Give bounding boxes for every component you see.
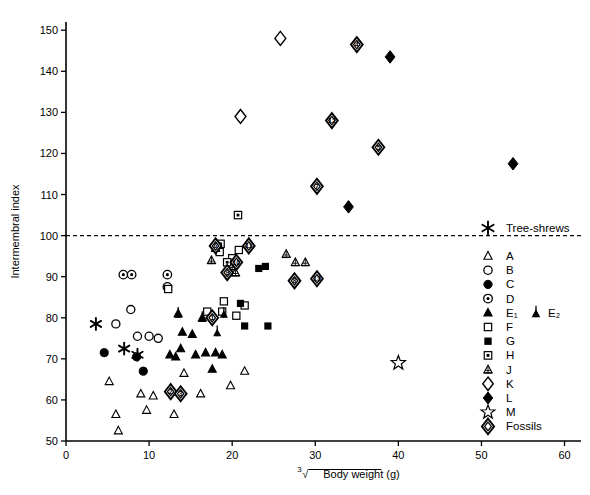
data-point-B-3 bbox=[145, 332, 153, 340]
y-tick-label: 70 bbox=[46, 353, 58, 365]
data-point-L-1 bbox=[385, 51, 395, 64]
data-point-F-4 bbox=[220, 298, 227, 305]
y-tick-label: 150 bbox=[40, 24, 58, 36]
legend-label-K: K bbox=[506, 378, 514, 390]
data-point-G-4 bbox=[262, 263, 269, 270]
legend-label-D: D bbox=[506, 293, 514, 305]
legend-symbol-F bbox=[484, 323, 491, 330]
data-point-E1-6 bbox=[202, 348, 210, 356]
data-point-A-5 bbox=[149, 391, 157, 399]
data-point-F-7 bbox=[235, 246, 242, 253]
legend-label-tree-shrews: Tree-shrews bbox=[506, 222, 570, 234]
data-point-E1-4 bbox=[188, 330, 196, 338]
legend-symbol-E bbox=[484, 308, 492, 316]
data-point-A-7 bbox=[180, 369, 188, 377]
legend-label-A: A bbox=[506, 250, 514, 262]
data-point-G-1 bbox=[241, 322, 248, 329]
legend-symbol-tree-shrews bbox=[482, 222, 493, 235]
y-tick-label: 130 bbox=[40, 106, 58, 118]
data-point-B-0 bbox=[112, 320, 120, 328]
figure-caption bbox=[34, 484, 554, 492]
data-point-D-1 bbox=[127, 270, 135, 278]
data-point-J-7 bbox=[207, 256, 215, 264]
data-point-C-2 bbox=[139, 367, 147, 375]
data-point-C-1 bbox=[133, 353, 141, 361]
legend-label-H: H bbox=[506, 349, 514, 361]
data-point-G-2 bbox=[264, 322, 271, 329]
data-point-A-4 bbox=[143, 406, 151, 414]
legend-label-M: M bbox=[506, 406, 516, 418]
y-tick-label: 50 bbox=[46, 435, 58, 447]
data-point-M-0 bbox=[391, 355, 405, 369]
fossil-number-label: 2 bbox=[169, 388, 173, 395]
data-point-A-0 bbox=[105, 377, 113, 385]
data-point-Tree-shrews-0 bbox=[91, 318, 101, 330]
legend-symbol-J bbox=[484, 365, 492, 373]
legend-label-G: G bbox=[506, 335, 515, 347]
fossil-number-label: 1 bbox=[210, 314, 214, 321]
y-tick-label: 90 bbox=[46, 271, 58, 283]
data-point-G-0 bbox=[237, 300, 244, 307]
fossil-number-label: 9 bbox=[225, 269, 229, 276]
data-point-A-1 bbox=[114, 426, 122, 434]
data-point-E1-5 bbox=[192, 350, 200, 358]
y-tick-label: 100 bbox=[40, 230, 58, 242]
data-point-J-5 bbox=[291, 258, 299, 266]
data-point-C-0 bbox=[100, 349, 108, 357]
legend-symbol-B bbox=[484, 266, 492, 274]
data-point-E1-0 bbox=[166, 350, 174, 358]
data-point-E2-2 bbox=[214, 326, 220, 337]
legend-label-B: B bbox=[506, 264, 514, 276]
fossil-number-label: 3 bbox=[179, 390, 183, 397]
legend-symbol-A bbox=[484, 252, 492, 260]
legend-label-Fossils: Fossils bbox=[506, 420, 542, 432]
legend-symbol-Fossils bbox=[482, 419, 494, 435]
data-point-A-2 bbox=[112, 410, 120, 418]
legend-symbol-L bbox=[483, 392, 492, 404]
x-tick-label: 10 bbox=[143, 449, 155, 461]
legend-symbol-G bbox=[484, 338, 491, 345]
scatter-plot-svg: 5060708090100110120130140150010203040506… bbox=[0, 0, 590, 495]
data-point-L-0 bbox=[344, 201, 354, 214]
data-point-K-1 bbox=[275, 31, 286, 45]
data-point-E1-3 bbox=[178, 328, 186, 336]
x-tick-label: 30 bbox=[309, 449, 321, 461]
fossil-number-label: 13 bbox=[313, 275, 321, 282]
data-point-A-9 bbox=[226, 381, 234, 389]
figure-panel: 5060708090100110120130140150010203040506… bbox=[0, 0, 590, 495]
legend-label-C: C bbox=[506, 278, 514, 290]
data-point-J-6 bbox=[301, 258, 309, 266]
data-point-Tree-shrews-1 bbox=[119, 343, 129, 355]
legend-label-L: L bbox=[506, 392, 513, 404]
y-tick-label: 140 bbox=[40, 65, 58, 77]
legend-symbol-E2 bbox=[533, 306, 540, 318]
fossil-number-label: 8 bbox=[293, 277, 297, 284]
y-axis-title: Intermembral index bbox=[9, 184, 21, 279]
legend-label-J: J bbox=[506, 364, 512, 376]
data-point-E1-2 bbox=[177, 344, 185, 352]
fossil-number-label: 10 bbox=[232, 259, 240, 266]
legend-symbol-D bbox=[484, 294, 493, 303]
legend-symbol-M bbox=[481, 405, 495, 418]
data-point-B-2 bbox=[133, 332, 141, 340]
legend-symbol-K bbox=[483, 377, 494, 391]
fossil-number-label: 12 bbox=[328, 117, 336, 124]
data-point-A-6 bbox=[170, 410, 178, 418]
legend-label-F: F bbox=[506, 321, 513, 333]
data-point-F-3 bbox=[233, 312, 240, 319]
data-point-E1-8 bbox=[212, 348, 220, 356]
x-axis-radical-icon: √ bbox=[302, 468, 309, 480]
y-tick-label: 110 bbox=[40, 189, 58, 201]
data-point-A-8 bbox=[197, 389, 205, 397]
legend-label-E: E₁ bbox=[506, 307, 518, 319]
y-tick-label: 60 bbox=[46, 394, 58, 406]
data-point-K-0 bbox=[235, 109, 246, 123]
data-point-A-3 bbox=[137, 389, 145, 397]
x-tick-label: 60 bbox=[558, 449, 570, 461]
legend-symbol-H bbox=[484, 352, 492, 360]
y-tick-label: 80 bbox=[46, 312, 58, 324]
fossil-number-label: 4 bbox=[355, 41, 359, 48]
data-point-B-4 bbox=[154, 334, 162, 342]
x-tick-label: 50 bbox=[475, 449, 487, 461]
y-tick-label: 120 bbox=[40, 147, 58, 159]
